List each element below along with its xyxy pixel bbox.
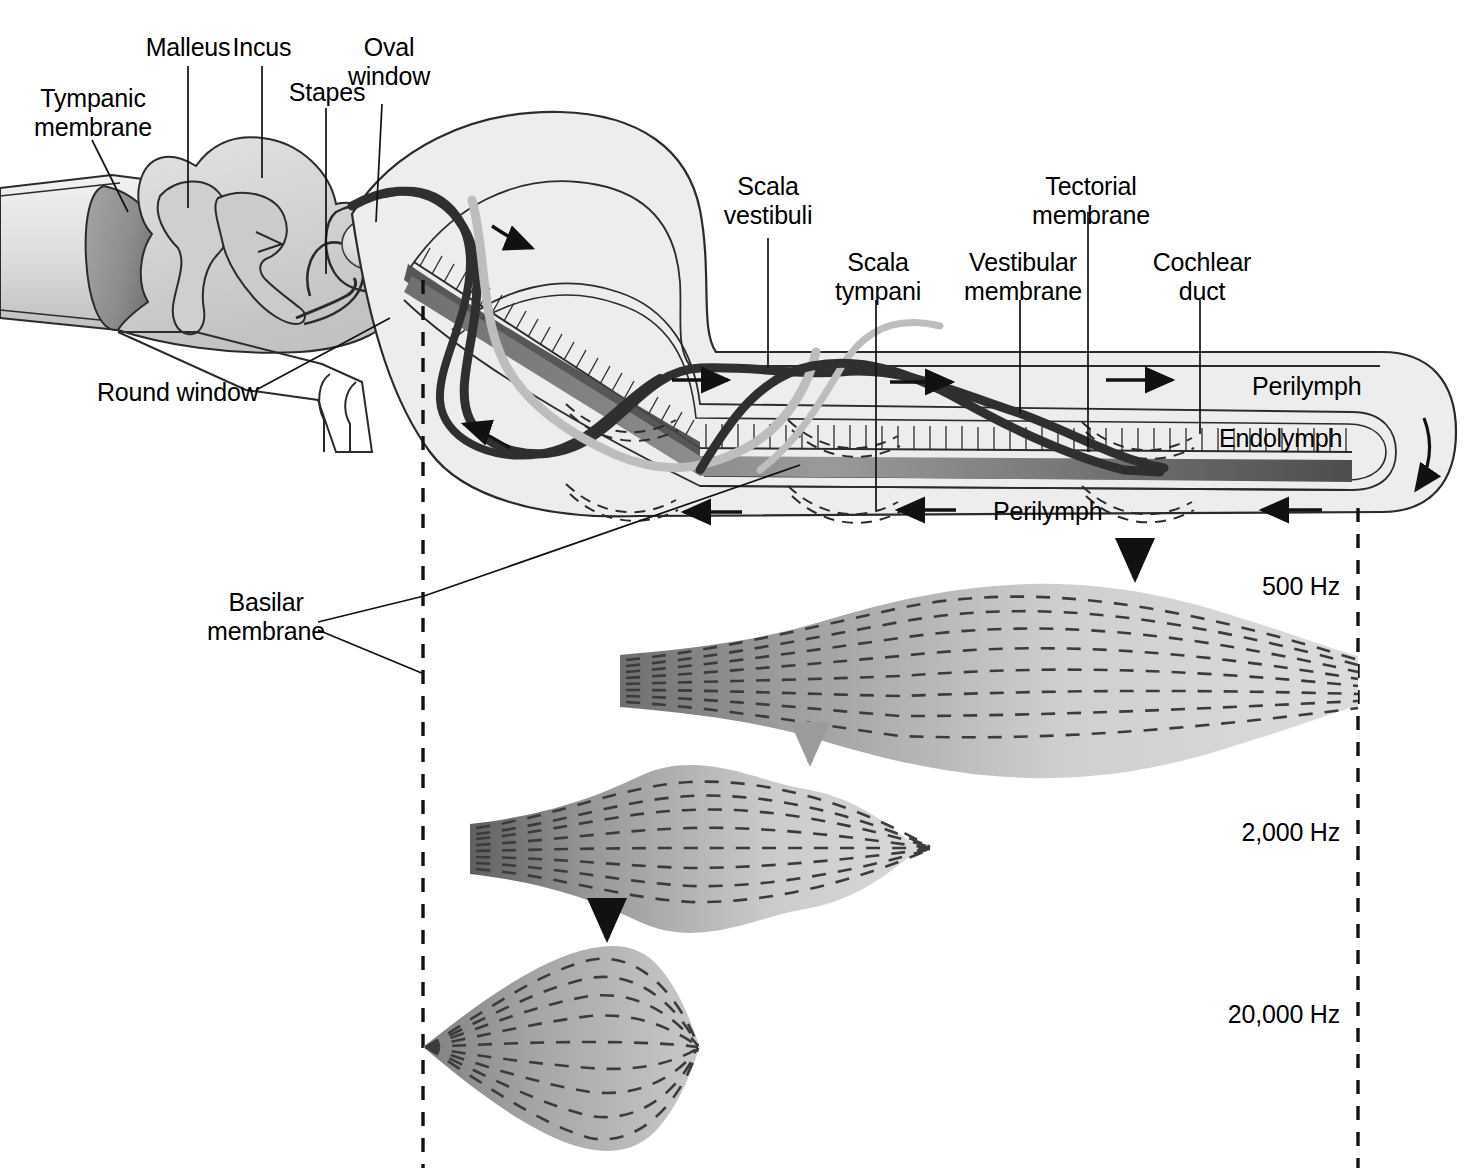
label-perilymph-lower: Perilymph (993, 497, 1102, 526)
uncoiled-cochlea-group (352, 112, 1456, 523)
label-endolymph: Endolymph (1219, 424, 1342, 453)
label-tympanic-membrane: Tympanic membrane (10, 84, 176, 141)
label-cochlear-duct: Cochlear duct (1134, 248, 1270, 305)
panel-20000-envelope (423, 946, 700, 1151)
label-incus: Incus (206, 33, 318, 62)
label-oval-window: Oval window (330, 33, 448, 90)
label-vestibular-membrane: Vestibular membrane (940, 248, 1106, 305)
label-basilar-membrane: Basilar membrane (198, 588, 334, 645)
label-perilymph-upper: Perilymph (1252, 372, 1361, 401)
label-round-window: Round window (97, 378, 297, 407)
figure-canvas: Tympanic membrane Malleus Incus Stapes O… (0, 0, 1483, 1170)
label-frequency-500: 500 Hz (1168, 572, 1340, 601)
label-tectorial-membrane: Tectorial membrane (1008, 172, 1174, 229)
label-frequency-2000: 2,000 Hz (1148, 818, 1340, 847)
label-frequency-20000: 20,000 Hz (1128, 1000, 1340, 1029)
label-scala-tympani: Scala tympani (812, 248, 944, 305)
label-scala-vestibuli: Scala vestibuli (700, 172, 836, 229)
